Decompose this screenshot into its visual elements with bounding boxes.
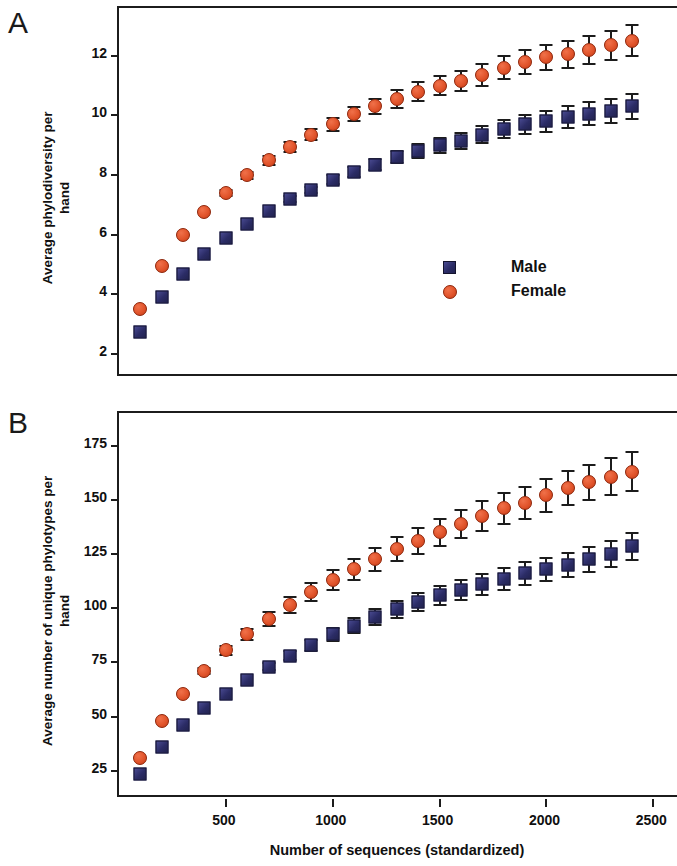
data-point-female — [347, 107, 361, 121]
error-bar-cap — [561, 504, 574, 506]
y-tick-mark — [111, 661, 119, 663]
error-bar-cap — [369, 570, 382, 572]
data-point-female — [475, 509, 489, 523]
error-bar-cap — [433, 518, 446, 520]
error-bar-cap — [583, 101, 596, 103]
data-point-male — [326, 628, 339, 641]
error-bar-cap — [433, 94, 446, 96]
data-point-male — [305, 639, 318, 652]
data-point-male — [390, 603, 403, 616]
error-bar-cap — [497, 137, 510, 139]
x-tick-mark — [332, 799, 334, 807]
data-point-female — [604, 38, 618, 52]
error-bar-cap — [540, 580, 553, 582]
error-bar-cap — [454, 70, 467, 72]
y-tick-mark — [111, 607, 119, 609]
error-bar-cap — [583, 499, 596, 501]
data-point-male — [241, 673, 254, 686]
data-point-male — [519, 118, 532, 131]
error-bar-cap — [348, 632, 361, 634]
data-point-female — [133, 302, 147, 316]
data-point-male — [198, 701, 211, 714]
error-bar-cap — [625, 451, 638, 453]
data-point-male — [540, 563, 553, 576]
data-point-male — [390, 151, 403, 164]
data-point-male — [177, 267, 190, 280]
data-point-male — [476, 578, 489, 591]
panel-b-letter: B — [8, 406, 28, 440]
error-bar-cap — [369, 624, 382, 626]
error-bar-cap — [540, 69, 553, 71]
data-point-female — [518, 496, 532, 510]
data-point-female — [326, 117, 340, 131]
data-point-male — [540, 115, 553, 128]
error-bar-cap — [604, 457, 617, 459]
data-point-female — [304, 128, 318, 142]
data-point-female — [454, 517, 468, 531]
data-point-female — [197, 205, 211, 219]
filled-circle-icon — [443, 285, 457, 299]
error-bar-cap — [476, 573, 489, 575]
data-point-male — [219, 231, 232, 244]
data-point-male — [326, 173, 339, 186]
data-point-male — [583, 553, 596, 566]
error-bar-cap — [433, 585, 446, 587]
panel-a-plot-frame — [117, 6, 677, 376]
y-tick-label: 2 — [63, 344, 107, 358]
error-bar-cap — [476, 594, 489, 596]
error-bar-cap — [561, 67, 574, 69]
error-bar-cap — [561, 552, 574, 554]
error-bar-cap — [390, 617, 403, 619]
data-point-female — [539, 50, 553, 64]
data-point-female — [283, 140, 297, 154]
error-bar-cap — [497, 567, 510, 569]
data-point-male — [561, 110, 574, 123]
x-tick-label: 1500 — [422, 813, 453, 827]
error-bar-cap — [519, 49, 532, 51]
error-bar-cap — [540, 511, 553, 513]
data-point-female — [262, 153, 276, 167]
data-point-male — [625, 100, 638, 113]
error-bar-cap — [519, 73, 532, 75]
error-bar-cap — [433, 152, 446, 154]
data-point-male — [348, 166, 361, 179]
error-bar-cap — [625, 24, 638, 26]
error-bar-cap — [497, 523, 510, 525]
error-bar-cap — [412, 100, 425, 102]
error-bar-cap — [625, 490, 638, 492]
y-tick-mark — [111, 499, 119, 501]
error-bar-cap — [412, 592, 425, 594]
error-bar-cap — [412, 81, 425, 83]
data-point-male — [497, 572, 510, 585]
data-point-female — [133, 751, 147, 765]
data-point-male — [369, 610, 382, 623]
y-tick-mark — [111, 353, 119, 355]
error-bar-cap — [348, 558, 361, 560]
data-point-male — [348, 619, 361, 632]
x-tick-label: 2500 — [636, 813, 667, 827]
data-point-male — [155, 291, 168, 304]
error-bar-cap — [476, 85, 489, 87]
error-bar-cap — [390, 536, 403, 538]
data-point-female — [561, 481, 575, 495]
error-bar-cap — [561, 127, 574, 129]
y-tick-label: 175 — [63, 436, 107, 450]
data-point-male — [433, 139, 446, 152]
data-point-female — [625, 34, 639, 48]
error-bar-cap — [369, 547, 382, 549]
error-bar-cap — [583, 63, 596, 65]
data-point-female — [518, 55, 532, 69]
x-axis-title: Number of sequences (standardized) — [267, 842, 527, 858]
error-bar-cap — [326, 569, 339, 571]
data-point-male — [519, 567, 532, 580]
data-point-male — [369, 158, 382, 171]
error-bar-cap — [625, 55, 638, 57]
error-bar-cap — [454, 148, 467, 150]
data-point-female — [411, 85, 425, 99]
error-bar-cap — [369, 113, 382, 115]
data-point-female — [347, 562, 361, 576]
data-point-female — [240, 627, 254, 641]
panel-b-plot-area — [119, 413, 677, 795]
error-bar-cap — [561, 40, 574, 42]
